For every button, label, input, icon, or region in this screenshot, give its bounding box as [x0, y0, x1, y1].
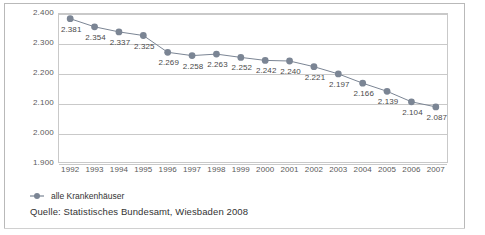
x-axis-tick-labels: 1992199319941995199619971998199920002001…: [58, 165, 448, 179]
x-tick-1994: 1994: [110, 165, 128, 174]
data-point-1995: [140, 32, 147, 39]
x-tick-1996: 1996: [159, 165, 177, 174]
data-label-1995: 2.325: [134, 42, 155, 51]
y-tick-2.300: 2.300: [33, 38, 54, 47]
data-point-1993: [91, 23, 98, 30]
x-tick-2004: 2004: [354, 165, 372, 174]
data-point-2000: [262, 57, 269, 64]
data-label-2005: 2.139: [378, 97, 399, 106]
data-label-2001: 2.240: [280, 67, 301, 76]
data-label-1998: 2.263: [207, 60, 228, 69]
x-tick-1997: 1997: [183, 165, 201, 174]
data-label-1992: 2.381: [61, 25, 82, 34]
data-point-2002: [311, 63, 318, 70]
bottom-divider: [4, 228, 465, 229]
x-tick-2005: 2005: [378, 165, 396, 174]
data-point-2006: [408, 98, 415, 105]
x-tick-1992: 1992: [61, 165, 79, 174]
data-point-1994: [116, 29, 123, 36]
x-tick-2002: 2002: [305, 165, 323, 174]
data-label-2006: 2.104: [402, 108, 423, 117]
data-point-1998: [213, 51, 220, 58]
data-point-2007: [432, 104, 439, 111]
data-point-2005: [384, 88, 391, 95]
y-tick-2.100: 2.100: [33, 98, 54, 107]
data-label-1996: 2.269: [158, 58, 179, 67]
data-point-2004: [359, 80, 366, 87]
x-tick-2007: 2007: [427, 165, 445, 174]
data-point-1997: [189, 52, 196, 59]
data-point-1992: [67, 15, 74, 22]
data-label-1993: 2.354: [85, 33, 106, 42]
legend: alle Krankenhäuser: [30, 190, 124, 202]
y-tick-2.200: 2.200: [33, 68, 54, 77]
x-tick-1999: 1999: [232, 165, 250, 174]
x-tick-2003: 2003: [329, 165, 347, 174]
x-tick-2006: 2006: [402, 165, 420, 174]
data-point-2001: [286, 58, 293, 65]
data-point-2003: [335, 71, 342, 78]
x-tick-1998: 1998: [207, 165, 225, 174]
series-line-alle-krankenhaeuser: [58, 13, 448, 163]
data-point-1999: [237, 54, 244, 61]
data-label-2003: 2.197: [329, 80, 350, 89]
y-tick-1.900: 1.900: [33, 158, 54, 167]
x-tick-1995: 1995: [134, 165, 152, 174]
legend-marker-icon: [30, 191, 44, 201]
data-label-1999: 2.252: [232, 63, 253, 72]
x-tick-2001: 2001: [280, 165, 298, 174]
chart-figure: 2.4002.3002.2002.1002.0001.900 2.3812.35…: [0, 0, 485, 235]
data-label-2007: 2.087: [427, 113, 448, 122]
data-label-2000: 2.242: [256, 66, 277, 75]
legend-label-alle-krankenhaeuser: alle Krankenhäuser: [51, 191, 124, 201]
series-polyline: [70, 19, 436, 107]
x-tick-1993: 1993: [85, 165, 103, 174]
data-label-1997: 2.258: [183, 62, 204, 71]
data-label-2002: 2.221: [305, 73, 326, 82]
y-axis-tick-labels: 2.4002.3002.2002.1002.0001.900: [10, 13, 54, 163]
data-label-1994: 2.337: [110, 38, 131, 47]
y-tick-2.000: 2.000: [33, 128, 54, 137]
source-note: Quelle: Statistisches Bundesamt, Wiesbad…: [30, 206, 248, 217]
data-label-2004: 2.166: [353, 89, 374, 98]
data-point-1996: [164, 49, 171, 56]
x-tick-2000: 2000: [256, 165, 274, 174]
y-tick-2.400: 2.400: [33, 8, 54, 17]
